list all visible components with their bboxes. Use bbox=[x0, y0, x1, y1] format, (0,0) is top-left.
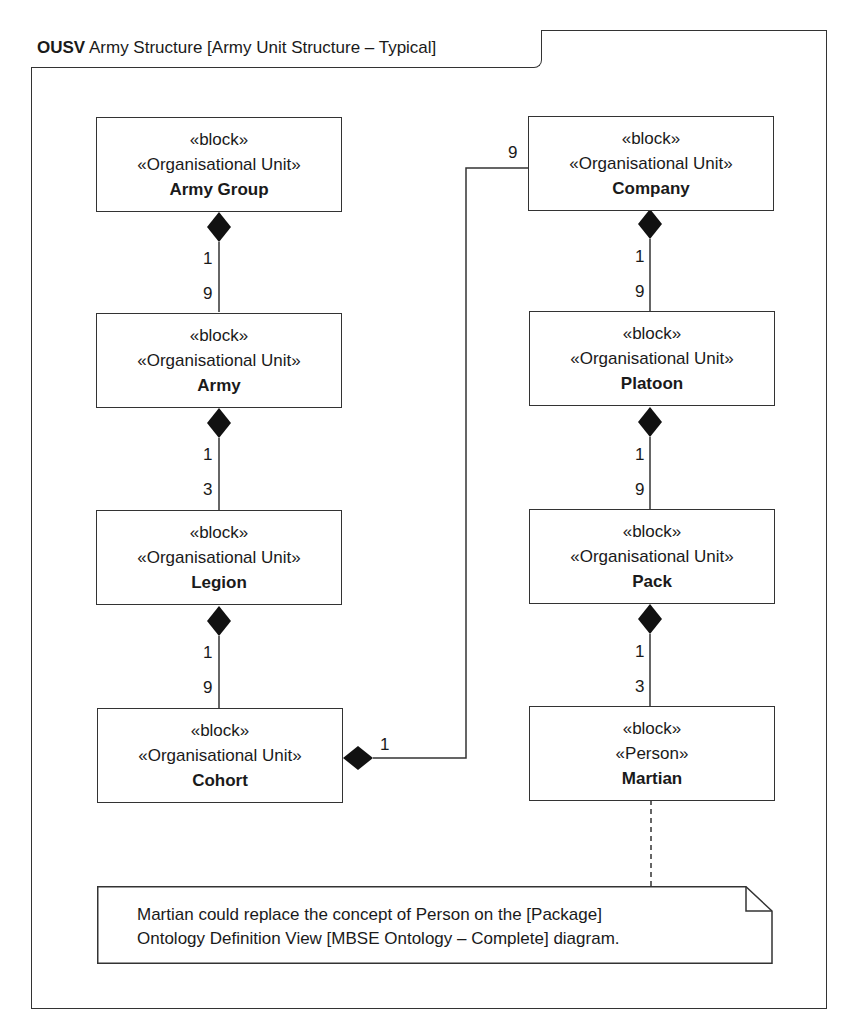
multiplicity-label: 1 bbox=[380, 736, 389, 754]
block-stereotype: «block» bbox=[98, 718, 342, 743]
multiplicity-label: 1 bbox=[203, 644, 212, 662]
block-name: Pack bbox=[530, 569, 774, 594]
composite-diamond-icon bbox=[343, 746, 373, 770]
composite-diamond-icon bbox=[638, 604, 662, 634]
block-stereotype: «Organisational Unit» bbox=[529, 151, 773, 176]
composite-diamond-icon bbox=[638, 407, 662, 437]
multiplicity-label: 1 bbox=[635, 446, 644, 464]
block-stereotype: «block» bbox=[530, 519, 774, 544]
block-stereotype: «block» bbox=[529, 126, 773, 151]
multiplicity-label: 9 bbox=[635, 481, 644, 499]
note-comment[interactable]: Martian could replace the concept of Per… bbox=[97, 886, 773, 964]
block-stereotype: «Organisational Unit» bbox=[530, 346, 774, 371]
block-name: Martian bbox=[530, 766, 774, 791]
block-martian[interactable]: «block» «Person» Martian bbox=[529, 706, 775, 801]
composition-cohort-company[interactable] bbox=[343, 168, 528, 770]
multiplicity-label: 1 bbox=[635, 248, 644, 266]
diagram-canvas: OUSV Army Structure [Army Unit Structure… bbox=[0, 0, 861, 1036]
multiplicity-label: 1 bbox=[203, 446, 212, 464]
block-platoon[interactable]: «block» «Organisational Unit» Platoon bbox=[529, 311, 775, 406]
block-stereotype: «Organisational Unit» bbox=[530, 544, 774, 569]
multiplicity-label: 9 bbox=[508, 144, 517, 162]
block-stereotype: «Organisational Unit» bbox=[97, 545, 341, 570]
composite-diamond-icon bbox=[207, 408, 231, 438]
block-legion[interactable]: «block» «Organisational Unit» Legion bbox=[96, 510, 342, 605]
composite-diamond-icon bbox=[207, 212, 231, 242]
block-pack[interactable]: «block» «Organisational Unit» Pack bbox=[529, 509, 775, 604]
block-name: Army bbox=[97, 373, 341, 398]
multiplicity-label: 9 bbox=[203, 285, 212, 303]
block-name: Company bbox=[529, 176, 773, 201]
block-army-group[interactable]: «block» «Organisational Unit» Army Group bbox=[96, 117, 342, 212]
block-name: Legion bbox=[97, 570, 341, 595]
block-name: Army Group bbox=[97, 177, 341, 202]
block-stereotype: «block» bbox=[530, 716, 774, 741]
block-stereotype: «Organisational Unit» bbox=[98, 743, 342, 768]
composite-diamond-icon bbox=[207, 606, 231, 636]
block-name: Cohort bbox=[98, 768, 342, 793]
multiplicity-label: 1 bbox=[635, 643, 644, 661]
note-text: Martian could replace the concept of Per… bbox=[137, 903, 620, 951]
block-cohort[interactable]: «block» «Organisational Unit» Cohort bbox=[97, 708, 343, 803]
block-name: Platoon bbox=[530, 371, 774, 396]
block-stereotype: «block» bbox=[530, 321, 774, 346]
multiplicity-label: 3 bbox=[203, 481, 212, 499]
block-stereotype: «Organisational Unit» bbox=[97, 348, 341, 373]
note-line: Ontology Definition View [MBSE Ontology … bbox=[137, 927, 620, 951]
block-stereotype: «block» bbox=[97, 323, 341, 348]
block-stereotype: «block» bbox=[97, 127, 341, 152]
block-army[interactable]: «block» «Organisational Unit» Army bbox=[96, 313, 342, 408]
block-stereotype: «block» bbox=[97, 520, 341, 545]
multiplicity-label: 9 bbox=[203, 679, 212, 697]
block-company[interactable]: «block» «Organisational Unit» Company bbox=[528, 116, 774, 211]
block-stereotype: «Organisational Unit» bbox=[97, 152, 341, 177]
multiplicity-label: 3 bbox=[635, 678, 644, 696]
composite-diamond-icon bbox=[638, 209, 662, 239]
multiplicity-label: 9 bbox=[635, 283, 644, 301]
block-stereotype: «Person» bbox=[530, 741, 774, 766]
multiplicity-label: 1 bbox=[203, 250, 212, 268]
note-line: Martian could replace the concept of Per… bbox=[137, 903, 620, 927]
